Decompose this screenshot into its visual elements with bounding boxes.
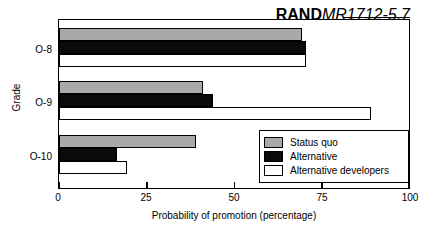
y-tick-label-o10: O-10 [6, 151, 52, 162]
chart-legend: Status quo Alternative Alternative devel… [259, 130, 409, 183]
legend-swatch-alternative-developers [264, 165, 283, 176]
legend-item-status-quo: Status quo [264, 136, 403, 149]
plot-area: Status quo Alternative Alternative devel… [59, 20, 409, 188]
legend-label-alternative-developers: Alternative developers [290, 165, 389, 176]
x-tick-label-50: 50 [214, 192, 254, 203]
bar-o8-status-quo [59, 28, 302, 41]
figure-chart-promotion-probability: RANDMR1712-5.7 Grade Probability of prom… [0, 0, 434, 237]
x-tick-mark-50 [234, 182, 235, 188]
x-tick-label-25: 25 [126, 192, 166, 203]
x-axis-title: Probability of promotion (percentage) [58, 210, 410, 221]
y-tick-label-o9: O-9 [6, 97, 52, 108]
x-tick-label-100: 100 [390, 192, 430, 203]
bar-o9-alternative-developers [59, 107, 371, 120]
x-tick-label-75: 75 [302, 192, 342, 203]
legend-label-status-quo: Status quo [290, 137, 338, 148]
bar-o10-alternative-developers [59, 161, 127, 174]
bar-o9-alternative [59, 94, 213, 107]
bar-o8-alternative [59, 41, 306, 54]
bar-group-o8 [59, 28, 409, 70]
x-tick-mark-0 [59, 182, 60, 188]
plot-frame: Status quo Alternative Alternative devel… [58, 19, 410, 189]
y-tick-label-o8: O-8 [6, 44, 52, 55]
bar-o9-status-quo [59, 81, 203, 94]
bar-group-o9 [59, 81, 409, 123]
credit-rule [344, 17, 410, 18]
bar-o10-status-quo [59, 135, 196, 148]
legend-swatch-alternative [264, 151, 283, 162]
x-tick-label-0: 0 [38, 192, 78, 203]
x-tick-mark-25 [146, 182, 147, 188]
legend-swatch-status-quo [264, 137, 283, 148]
legend-item-alternative-developers: Alternative developers [264, 164, 403, 177]
legend-label-alternative: Alternative [290, 151, 337, 162]
bar-o8-alternative-developers [59, 54, 306, 67]
bar-o10-alternative [59, 148, 117, 161]
legend-item-alternative: Alternative [264, 150, 403, 163]
